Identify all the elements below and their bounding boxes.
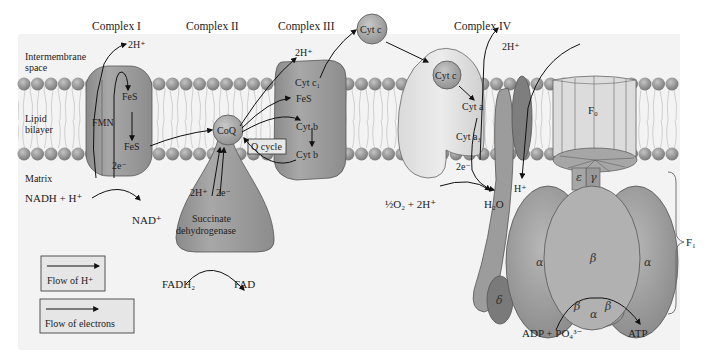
c4-proton: 2H⁺ bbox=[502, 41, 520, 52]
beta-bottom-left-label: β bbox=[573, 300, 580, 313]
lipid-head bbox=[382, 148, 395, 161]
nad-label: NAD⁺ bbox=[132, 214, 162, 226]
lipid-head bbox=[153, 78, 166, 91]
lipid-head bbox=[652, 148, 665, 161]
lipid-head bbox=[72, 148, 85, 161]
atp-h-label: H⁺ bbox=[514, 183, 527, 194]
lipid-head bbox=[666, 78, 679, 91]
complex-i-label: Complex I bbox=[92, 20, 141, 33]
c2-proton: 2H⁺ bbox=[190, 187, 208, 198]
legend-proton-label: Flow of H⁺ bbox=[47, 275, 93, 286]
q-cycle-label: Q cycle bbox=[251, 141, 282, 152]
coq-label: CoQ bbox=[217, 125, 237, 136]
f0-label: F₀ bbox=[588, 104, 598, 116]
lipid-head bbox=[652, 78, 665, 91]
alpha-bottom-label: α bbox=[590, 308, 598, 321]
cyt-b2-label: Cyt b bbox=[296, 149, 318, 160]
electron-transport-chain-diagram: Complex I Complex II Complex III Complex… bbox=[0, 0, 721, 360]
lipid-head bbox=[382, 78, 395, 91]
lipid-head bbox=[31, 148, 44, 161]
f1-label: F₁ bbox=[686, 236, 696, 248]
beta-center-label: β bbox=[589, 252, 596, 265]
lipid-head bbox=[180, 78, 193, 91]
lipid-head bbox=[18, 78, 31, 91]
cyt-a-label: Cyt a bbox=[462, 101, 484, 112]
lipid-head bbox=[531, 148, 544, 161]
c3-proton: 2H⁺ bbox=[295, 47, 313, 58]
adp-label: ADP + PO₄³⁻ bbox=[522, 327, 582, 339]
lipid-head bbox=[247, 78, 260, 91]
lipid-head bbox=[193, 148, 206, 161]
lipid-head bbox=[639, 78, 652, 91]
lipid-head bbox=[639, 148, 652, 161]
lipid-label-1: Lipid bbox=[25, 113, 47, 124]
sdh-label-1: Succinate bbox=[192, 213, 231, 224]
lipid-head bbox=[193, 78, 206, 91]
sdh-label-2: dehydrogenase bbox=[176, 225, 237, 236]
epsilon-label: ε bbox=[576, 171, 582, 184]
lipid-head bbox=[18, 148, 31, 161]
fad-label: FAD bbox=[234, 278, 255, 290]
lipid-head bbox=[666, 148, 679, 161]
c4-electrons: 2e⁻ bbox=[456, 161, 471, 172]
c1-electrons: 2e⁻ bbox=[112, 160, 127, 171]
lipid-head bbox=[234, 78, 247, 91]
c1-proton-label: 2H⁺ bbox=[128, 39, 146, 50]
c1-fes-top: FeS bbox=[122, 91, 138, 102]
lipid-head bbox=[31, 78, 44, 91]
c2-electrons: 2e⁻ bbox=[216, 187, 231, 198]
lipid-label-2: bilayer bbox=[25, 124, 53, 135]
nadh-label: NADH + H⁺ bbox=[25, 192, 82, 204]
lipid-head bbox=[72, 78, 85, 91]
fadh2-label: FADH₂ bbox=[162, 278, 195, 290]
lipid-head bbox=[166, 148, 179, 161]
intermembrane-label-1: Intermembrane bbox=[25, 51, 87, 62]
cyt-c-mobile-label: Cyt c bbox=[360, 24, 382, 35]
lipid-head bbox=[207, 78, 220, 91]
lipid-head bbox=[45, 78, 58, 91]
alpha-left-label: α bbox=[536, 256, 544, 269]
cyt-b1-label: Cyt b bbox=[296, 121, 318, 132]
c4-cyt-c-label: Cyt c bbox=[435, 70, 457, 81]
beta-bottom-right-label: β bbox=[604, 300, 611, 313]
lipid-head bbox=[369, 148, 382, 161]
c1-fmn: FMN bbox=[92, 117, 114, 128]
complex-iii-label: Complex III bbox=[278, 20, 335, 33]
gamma-label: γ bbox=[590, 171, 597, 184]
lipid-head bbox=[220, 78, 233, 91]
oxygen-label: ½O₂ + 2H⁺ bbox=[385, 198, 436, 210]
lipid-head bbox=[166, 78, 179, 91]
cyt-c1-label: Cyt c₁ bbox=[295, 77, 320, 88]
complex-iv-label: Complex IV bbox=[454, 20, 512, 33]
alpha-right-label: α bbox=[644, 256, 652, 269]
lipid-head bbox=[490, 78, 503, 91]
lipid-head bbox=[355, 78, 368, 91]
lipid-head bbox=[369, 78, 382, 91]
delta-label: δ bbox=[496, 294, 503, 307]
c1-fes-bottom: FeS bbox=[124, 141, 140, 152]
lipid-head bbox=[45, 148, 58, 161]
legend-electron-label: Flow of electrons bbox=[45, 318, 115, 329]
water-label: H₂O bbox=[484, 198, 504, 210]
lipid-head bbox=[180, 148, 193, 161]
c3-fes-label: FeS bbox=[296, 93, 312, 104]
lipid-head bbox=[58, 78, 71, 91]
cyt-a3-label: Cyt a₃ bbox=[456, 131, 481, 142]
complex-ii-label: Complex II bbox=[186, 20, 239, 33]
lipid-head bbox=[58, 148, 71, 161]
intermembrane-label-2: space bbox=[25, 62, 48, 73]
lipid-head bbox=[153, 148, 166, 161]
atp-label: ATP bbox=[628, 327, 648, 339]
lipid-head bbox=[355, 148, 368, 161]
f0-rotor bbox=[553, 76, 637, 172]
matrix-label: Matrix bbox=[25, 173, 52, 184]
